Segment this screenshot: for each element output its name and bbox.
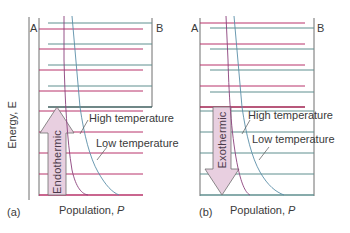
- panel-a-tag: (a): [7, 207, 20, 218]
- panel-a-xlabel-var: P: [117, 204, 124, 216]
- panel-b-graphics: [200, 16, 314, 196]
- panel-b-xlabel-var: P: [288, 204, 295, 216]
- energy-axis-label-text: Energy, E: [6, 101, 18, 149]
- panel-a-low-temp-label: Low temperature: [96, 138, 179, 149]
- panel-b-xlabel: Population, P: [230, 205, 295, 216]
- panel-a-high-temp-curve: [64, 16, 88, 195]
- panel-b-high-temp-label: High temperature: [248, 110, 333, 121]
- panel-b-label-B: B: [317, 23, 324, 34]
- panel-a-xlabel: Population, P: [59, 205, 124, 216]
- panel-a-xlabel-text: Population,: [59, 204, 117, 216]
- panel-b-low-temp-curve: [234, 16, 284, 195]
- panel-b-levels-A: [200, 23, 305, 107]
- panel-a-label-A: A: [30, 23, 37, 34]
- energy-axis-label: Energy, E: [6, 101, 18, 149]
- panel-b-low-temp-label: Low temperature: [252, 134, 335, 145]
- panel-a-high-temp-label: High temperature: [89, 113, 174, 124]
- panel-a-low-temp-curve: [72, 16, 119, 195]
- panel-b-xlabel-text: Population,: [230, 204, 288, 216]
- panel-b-label-A: A: [191, 23, 198, 34]
- panel-a-label-B: B: [156, 23, 163, 34]
- diagram-figure: Energy, E A B Endothermic High temperatu…: [0, 0, 350, 233]
- exothermic-label: Exothermic: [216, 111, 228, 168]
- endothermic-label: Endothermic: [51, 130, 63, 194]
- panel-b-tag: (b): [199, 207, 212, 218]
